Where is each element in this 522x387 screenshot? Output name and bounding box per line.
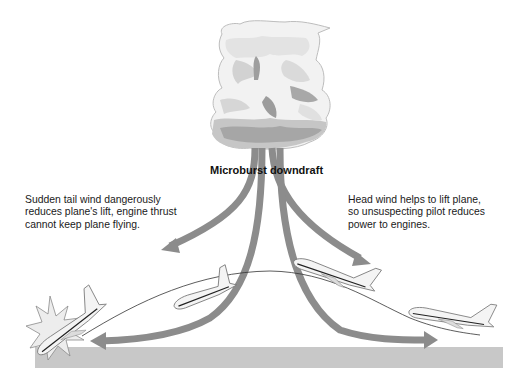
arrowheads — [90, 238, 438, 350]
microburst-title: Microburst downdraft — [210, 164, 323, 176]
tailwind-annotation: Sudden tail wind dangerously reduces pla… — [25, 194, 177, 231]
downdraft-upper-left-arrow — [170, 148, 255, 246]
downdraft-right-ground-arrow — [280, 148, 428, 340]
storm-cloud-icon — [211, 21, 330, 149]
ground-band — [35, 347, 503, 368]
downdraft-arrows — [100, 148, 428, 341]
microburst-diagram: Microburst downdraft Sudden tail wind da… — [0, 0, 522, 387]
arrowhead-right-ground-icon — [424, 331, 438, 349]
flight-path-line — [82, 271, 480, 336]
headwind-annotation: Head wind helps to lift plane, so unsusp… — [348, 194, 485, 231]
airplane-approaching-icon — [408, 293, 497, 333]
